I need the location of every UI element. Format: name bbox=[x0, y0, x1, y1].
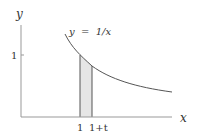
y-tick-label: 1 bbox=[11, 50, 17, 61]
x-axis-label: x bbox=[180, 111, 187, 125]
curve-label: y = 1/x bbox=[68, 26, 111, 37]
strip-left-label: 1 bbox=[77, 122, 83, 133]
strip-right-label: 1+t bbox=[89, 122, 108, 133]
diagram: y 1 x y = 1/x 1 1+t bbox=[0, 0, 197, 138]
y-axis-label: y bbox=[15, 7, 23, 21]
